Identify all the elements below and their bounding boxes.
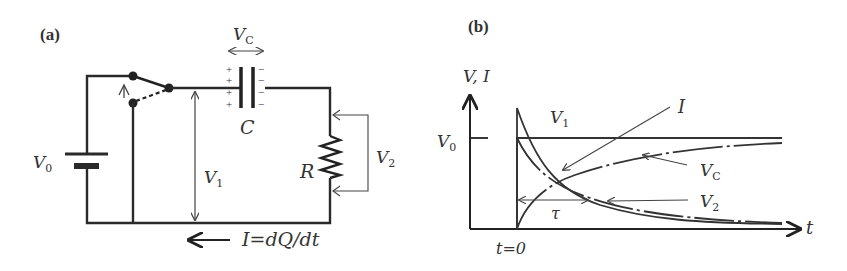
- capacitor-label: C: [240, 116, 255, 138]
- panel-b-label: (b): [468, 17, 489, 36]
- resistor-label: R: [299, 160, 314, 182]
- svg-text:+: +: [226, 74, 232, 86]
- wire-top-left: [87, 76, 133, 154]
- current-label: I=dQ/dt: [241, 228, 320, 250]
- svg-text:+: +: [226, 86, 232, 98]
- capacitor-plus-charges: + + + +: [226, 63, 232, 110]
- panel-a-circuit: (a) V0 V1 +: [33, 24, 395, 250]
- vc-curve-label: VC: [700, 160, 721, 183]
- svg-text:+: +: [226, 98, 232, 110]
- tau-label: τ: [551, 204, 561, 223]
- vc-leader-line: [643, 155, 687, 165]
- panel-b-graph: (b) V, I t V0 t=0 τ V1 I VC V2: [437, 17, 814, 258]
- battery-label: V0: [33, 152, 52, 175]
- v0-label: V0: [437, 131, 456, 154]
- panel-a-label: (a): [40, 25, 60, 44]
- wire-loop: [87, 88, 330, 223]
- switch-icon: [119, 72, 174, 224]
- resistor-icon: [321, 136, 340, 178]
- v2-curve-label: V2: [700, 191, 719, 214]
- svg-text:−: −: [258, 86, 264, 98]
- v2-leader-line: [608, 200, 688, 201]
- v1-curve-label: V1: [550, 107, 569, 130]
- y-axis-label: V, I: [463, 66, 490, 86]
- i-curve-label: I: [677, 96, 686, 117]
- rc-circuit-figure: (a) V0 V1 +: [0, 0, 847, 271]
- svg-text:−: −: [258, 74, 264, 86]
- battery-icon: [65, 154, 108, 166]
- capacitor-minus-charges: − − − −: [258, 63, 264, 110]
- v2-label: V2: [376, 147, 395, 170]
- t0-label: t=0: [496, 239, 526, 258]
- svg-text:−: −: [258, 98, 264, 110]
- capacitor-icon: [241, 67, 253, 108]
- capacitor-voltage-label: VC: [233, 24, 254, 47]
- x-axis-label: t: [806, 217, 814, 238]
- v1-label: V1: [204, 167, 223, 190]
